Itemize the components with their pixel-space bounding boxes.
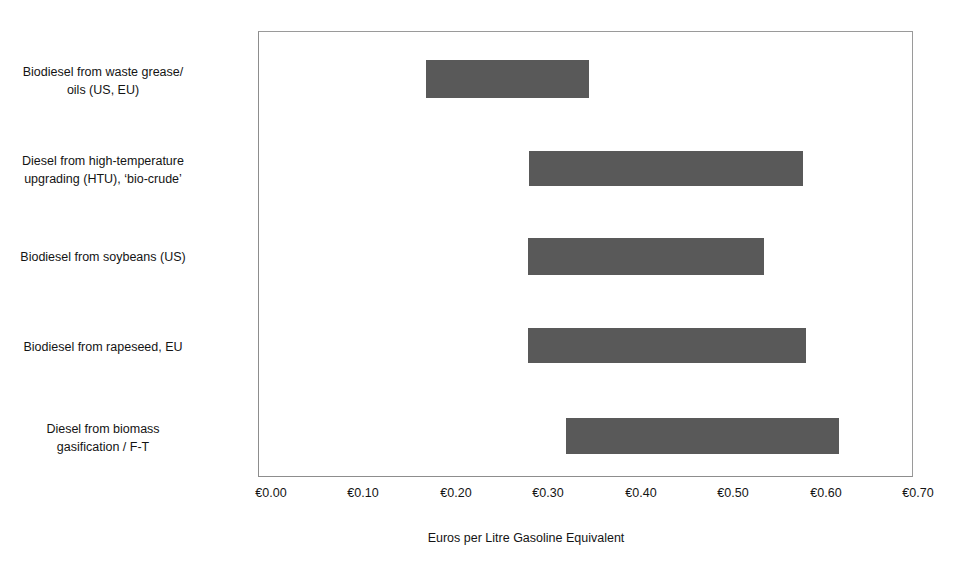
plot-area [258, 31, 913, 477]
category-label-biomass-gasification: Diesel from biomass gasification / F-T [0, 420, 238, 456]
xtick-label-7: €0.70 [878, 486, 958, 500]
x-axis-title-wrapper: Euros per Litre Gasoline Equivalent [0, 531, 980, 545]
range-bar-chart: Biodiesel from waste grease/ oils (US, E… [0, 0, 980, 579]
category-label-htu-bio-crude: Diesel from high-temperature upgrading (… [0, 152, 238, 188]
range-bar-biomass-gasification [566, 418, 839, 454]
xtick-label-0: €0.00 [231, 486, 311, 500]
x-axis-title: Euros per Litre Gasoline Equivalent [428, 531, 625, 545]
xtick-label-1: €0.10 [323, 486, 403, 500]
xtick-label-3: €0.30 [508, 486, 588, 500]
category-label-rapeseed: Biodiesel from rapeseed, EU [0, 338, 238, 356]
range-bar-rapeseed [528, 328, 806, 363]
category-label-waste-grease: Biodiesel from waste grease/ oils (US, E… [0, 63, 238, 99]
xtick-label-2: €0.20 [416, 486, 496, 500]
range-bar-waste-grease [426, 60, 589, 98]
range-bar-soybeans [528, 238, 764, 275]
category-label-soybeans: Biodiesel from soybeans (US) [0, 248, 238, 266]
xtick-label-4: €0.40 [601, 486, 681, 500]
range-bar-htu-bio-crude [529, 151, 803, 186]
xtick-label-6: €0.60 [786, 486, 866, 500]
xtick-label-5: €0.50 [693, 486, 773, 500]
